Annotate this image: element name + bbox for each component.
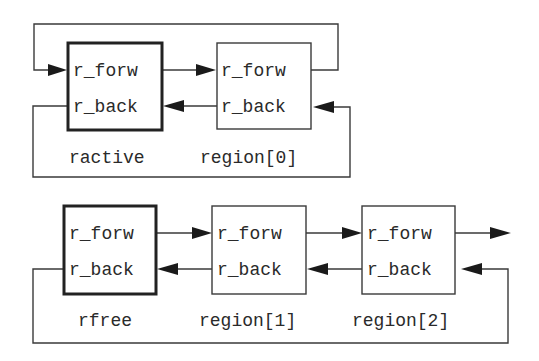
node-label: rfree — [78, 311, 132, 331]
node-box — [64, 206, 156, 294]
node-label: region[2] — [352, 311, 449, 331]
node-label: region[1] — [199, 311, 296, 331]
arrowhead-left — [313, 101, 334, 113]
field-r-back: r_back — [73, 97, 138, 117]
node-region-2: r_forw r_back region[2] — [352, 206, 455, 331]
bottom-list: r_forw r_back rfree r_forw r_back region… — [33, 206, 511, 343]
field-r-forw: r_forw — [69, 224, 134, 244]
field-r-back: r_back — [221, 97, 286, 117]
field-r-back: r_back — [367, 260, 432, 280]
node-box — [212, 206, 306, 294]
node-region-0: r_forw r_back region[0] — [200, 43, 311, 168]
field-r-forw: r_forw — [221, 61, 286, 81]
node-region-1: r_forw r_back region[1] — [199, 206, 306, 331]
arrowhead-left — [163, 100, 184, 112]
arrowhead-right — [48, 64, 67, 76]
arrowhead-right — [192, 227, 212, 239]
field-r-back: r_back — [69, 260, 134, 280]
node-ractive: r_forw r_back ractive — [68, 43, 162, 168]
node-label: region[0] — [200, 148, 297, 168]
arrowhead-right — [196, 64, 216, 76]
arrowhead-right — [342, 227, 362, 239]
top-list: r_forw r_back ractive r_forw r_back regi… — [33, 24, 350, 177]
field-r-forw: r_forw — [367, 224, 432, 244]
node-label: ractive — [69, 148, 145, 168]
node-box — [362, 206, 455, 294]
arrowhead-left — [461, 263, 482, 275]
arrowhead-left — [307, 263, 328, 275]
field-r-forw: r_forw — [73, 61, 138, 81]
doubly-linked-list-diagram: r_forw r_back ractive r_forw r_back regi… — [0, 0, 539, 361]
field-r-forw: r_forw — [217, 224, 282, 244]
arrowhead-left — [157, 263, 178, 275]
node-rfree: r_forw r_back rfree — [64, 206, 156, 331]
field-r-back: r_back — [217, 260, 282, 280]
arrowhead-right — [490, 227, 511, 239]
